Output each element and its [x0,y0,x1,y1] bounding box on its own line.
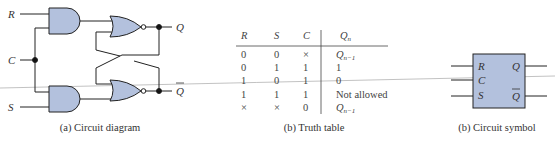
svg-text:1: 1 [303,75,308,86]
tt-row: 0 0 × Qn−1 [241,49,355,62]
and-gate-top [49,8,80,34]
tt-row: 1 1 1 Not allowed [241,89,388,100]
svg-text:0: 0 [303,102,308,113]
s-label: S [8,101,14,113]
c-label: C [8,54,16,66]
symbol-qbar-label: Q [512,90,520,102]
flip-flop-figure: R C S Q Q (a) Circuit diagram R S C Qn 0… [0,0,555,143]
tt-header-c: C [303,30,311,41]
nor-gate-top [110,16,141,37]
svg-text:0: 0 [241,49,246,60]
nor-top-bubble [141,25,146,30]
svg-text:1: 1 [336,62,341,73]
svg-text:1: 1 [303,89,308,100]
svg-text:1: 1 [241,75,246,86]
symbol-s-label: S [478,89,484,101]
circuit-diagram [20,8,172,112]
qbar-label: Q [176,85,184,97]
tt-row: 0 1 1 1 [241,62,341,73]
truth-table-caption: (b) Truth table [284,122,345,134]
tt-header-q: Qn [340,30,352,43]
nor-gate-bottom [110,80,141,101]
svg-text:1: 1 [274,89,279,100]
r-label: R [7,8,15,20]
svg-text:Qn−1: Qn−1 [336,49,355,62]
symbol-q-label: Q [512,60,520,72]
svg-text:Qn−1: Qn−1 [336,102,355,115]
svg-text:×: × [303,49,309,60]
svg-text:Not allowed: Not allowed [336,89,388,100]
and-gate-bottom [49,86,80,112]
svg-text:0: 0 [274,75,279,86]
svg-text:×: × [274,102,280,113]
tt-row: × × 0 Qn−1 [241,102,355,115]
tt-row: 1 0 1 0 [241,75,341,86]
svg-text:×: × [241,102,247,113]
q-label: Q [176,21,184,33]
symbol-r-label: R [477,60,485,72]
svg-text:1: 1 [241,89,246,100]
circuit-symbol: R C S Q Q [451,54,547,108]
svg-text:1: 1 [303,62,308,73]
symbol-caption: (b) Circuit symbol [458,122,536,134]
circuit-caption: (a) Circuit diagram [60,122,140,134]
svg-text:0: 0 [241,62,246,73]
tt-header-r: R [240,30,248,41]
tt-header-s: S [274,30,280,41]
svg-text:0: 0 [274,49,279,60]
q-feedback-wire [96,27,159,84]
svg-text:1: 1 [274,62,279,73]
truth-table: R S C Qn 0 0 × Qn−1 0 1 1 1 1 0 1 0 1 1 … [236,30,388,115]
nor-bottom-bubble [141,89,146,94]
qbar-feedback-wire [134,61,159,91]
c-junction-dot [33,58,38,63]
symbol-c-label: C [478,74,486,86]
svg-text:0: 0 [336,75,341,86]
